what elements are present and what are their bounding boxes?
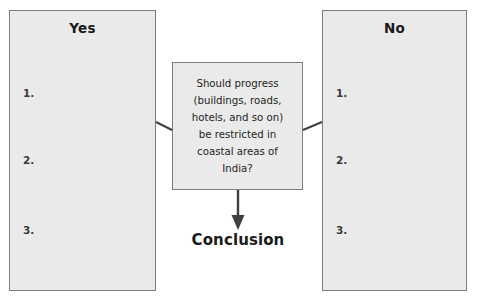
conclusion-label: Conclusion (150, 231, 326, 249)
reason-slot-no-3[interactable]: 3. (336, 224, 347, 236)
reason-slot-no-2[interactable]: 2. (336, 154, 347, 166)
reason-slot-yes-2[interactable]: 2. (23, 154, 34, 166)
question-line-4: be restricted in (199, 126, 276, 143)
reason-slot-yes-1[interactable]: 1. (23, 87, 34, 99)
question-line-2: (buildings, roads, (193, 92, 281, 109)
question-line-6: India? (222, 160, 252, 177)
question-line-1: Should progress (196, 75, 278, 92)
question-line-3: hotels, and so on) (192, 109, 283, 126)
option-box-no[interactable]: No 1. 2. 3. (322, 10, 467, 291)
reason-slot-no-1[interactable]: 1. (336, 87, 347, 99)
connector-question-to-no (303, 122, 322, 130)
option-title-yes: Yes (10, 20, 155, 36)
question-box: Should progress (buildings, roads, hotel… (172, 62, 303, 190)
diagram-canvas: Yes 1. 2. 3. No 1. 2. 3. Should progress… (0, 0, 477, 303)
option-title-no: No (323, 20, 466, 36)
question-line-5: coastal areas of (197, 143, 278, 160)
reason-slot-yes-3[interactable]: 3. (23, 224, 34, 236)
connector-yes-to-question (156, 122, 172, 130)
arrow-down-icon (232, 215, 245, 230)
option-box-yes[interactable]: Yes 1. 2. 3. (9, 10, 156, 291)
